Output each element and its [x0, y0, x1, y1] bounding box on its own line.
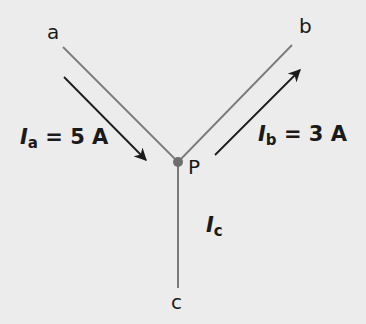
current-subscript-a: a: [28, 134, 38, 152]
current-label-a: Ia = 5 A: [20, 127, 108, 151]
junction-diagram: a b c P Ia = 5 A Ib = 3 A Ic: [0, 0, 366, 324]
current-label-b: Ib = 3 A: [258, 124, 347, 148]
current-symbol-c: I: [206, 213, 214, 237]
terminal-label-b: b: [299, 16, 312, 36]
current-label-c: Ic: [206, 215, 223, 239]
current-symbol-b: I: [258, 122, 266, 146]
current-value-a: = 5 A: [38, 125, 108, 149]
current-subscript-c: c: [214, 222, 223, 240]
current-subscript-b: b: [266, 131, 277, 149]
current-value-b: = 3 A: [277, 122, 347, 146]
junction-node-icon: [173, 157, 183, 167]
diagram-lines: [0, 0, 366, 324]
junction-label-p: P: [188, 157, 200, 177]
current-symbol-a: I: [20, 125, 28, 149]
terminal-label-a: a: [47, 22, 59, 42]
terminal-label-c: c: [171, 292, 182, 312]
